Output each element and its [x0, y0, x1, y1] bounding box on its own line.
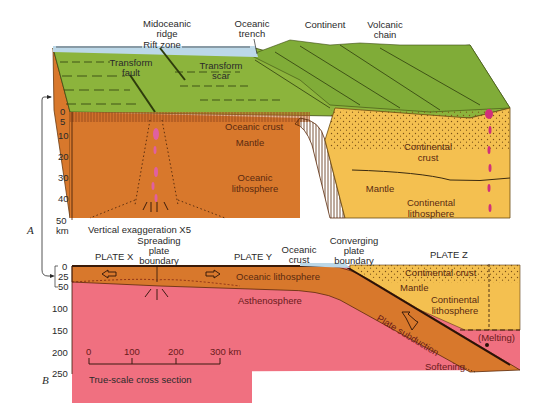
- label-continental-crust: Continental: [404, 141, 452, 152]
- label-softening: Softening: [425, 361, 465, 372]
- scale-connector-bracket: [42, 97, 52, 276]
- label-rift-zone: Rift zone: [143, 39, 181, 50]
- caption-vertical-exaggeration: Vertical exaggeration X5: [88, 224, 191, 235]
- label-boundary-conv: boundary: [334, 255, 374, 266]
- label-lithosphere: lithosphere: [232, 183, 278, 194]
- label-lithosphere-b2: lithosphere: [432, 305, 478, 316]
- label-continental-lithosphere: Continental: [407, 197, 455, 208]
- label-lithosphere-continental: lithosphere: [408, 208, 454, 219]
- label-melting: (Melting): [478, 332, 515, 343]
- label-mantle-b: Mantle: [400, 282, 429, 293]
- label-oceanic-lithosphere: Oceanic: [238, 172, 273, 183]
- label-mantle-continental: Mantle: [366, 183, 395, 194]
- depth-tick-40: 40: [58, 193, 69, 204]
- arrow-icon: [47, 95, 52, 99]
- label-trench: trench: [239, 28, 265, 39]
- label-crust: crust: [418, 152, 439, 163]
- label-mantle: Mantle: [236, 137, 265, 148]
- label-plate-z: PLATE Z: [430, 249, 468, 260]
- label-fault: fault: [122, 67, 140, 78]
- label-continental-lithosphere-b: Continental: [431, 294, 479, 305]
- depth-tick-5: 5: [60, 116, 65, 127]
- depth-tick-20: 20: [58, 151, 69, 162]
- label-crust-b: crust: [289, 254, 310, 265]
- b-depth-tick-200: 200: [52, 347, 68, 358]
- label-scar: scar: [212, 70, 230, 81]
- panel-b-depth-axis: 0 25 50 100 150 200 250: [52, 261, 72, 379]
- scale-tick-0: 0: [86, 346, 91, 357]
- label-chain: chain: [374, 29, 397, 40]
- arrow-icon: [50, 274, 55, 278]
- plate-tectonics-diagram: 0 5 10 20 30 40 50 km Midoceanic ridge R…: [0, 0, 549, 404]
- label-oceanic-lithosphere-b: Oceanic lithosphere: [236, 271, 320, 282]
- b-depth-tick-50: 50: [58, 281, 69, 292]
- label-plate-x: PLATE X: [95, 251, 134, 262]
- label-continental-crust-b: Continental crust: [405, 267, 477, 278]
- label-ridge: ridge: [156, 28, 177, 39]
- depth-tick-30: 30: [58, 172, 69, 183]
- scale-tick-200: 200: [168, 346, 184, 357]
- depth-tick-10: 10: [58, 130, 69, 141]
- b-depth-tick-250: 250: [52, 368, 68, 379]
- panel-letter-a: A: [26, 224, 34, 236]
- b-depth-tick-100: 100: [52, 303, 68, 314]
- label-boundary: boundary: [139, 255, 179, 266]
- label-plate-y: PLATE Y: [234, 251, 273, 262]
- scale-tick-100: 100: [124, 346, 140, 357]
- b-depth-tick-150: 150: [52, 325, 68, 336]
- melting-blob: [485, 343, 489, 347]
- panel-letter-b: B: [42, 374, 49, 386]
- depth-unit: km: [56, 225, 69, 236]
- scale-tick-300: 300 km: [210, 346, 241, 357]
- label-oceanic-crust: Oceanic crust: [225, 121, 283, 132]
- caption-true-scale: True-scale cross section: [89, 374, 192, 385]
- label-continent: Continent: [305, 19, 346, 30]
- label-asthenosphere: Asthenosphere: [238, 295, 302, 306]
